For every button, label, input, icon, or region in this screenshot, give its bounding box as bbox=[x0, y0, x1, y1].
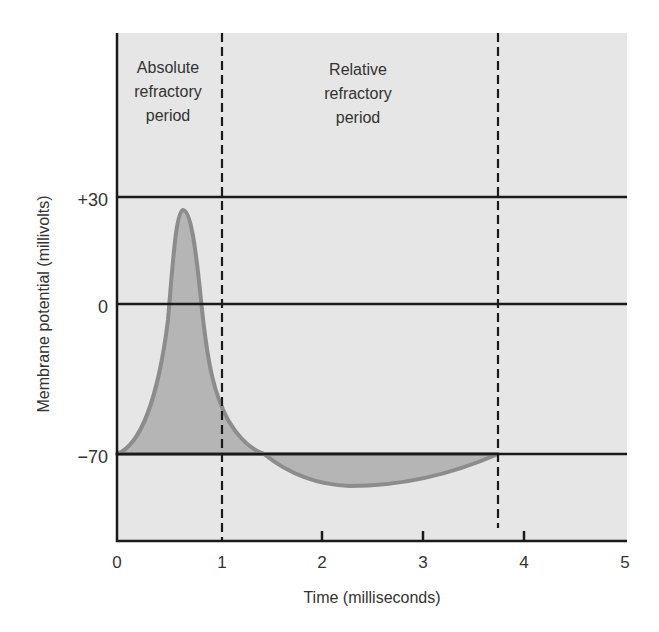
region-absolute-line1: Absolute bbox=[137, 59, 199, 76]
y-axis-title: Membrane potential (millivolts) bbox=[35, 196, 52, 413]
y-tick-label-zero: 0 bbox=[98, 297, 108, 317]
x-axis-title: Time (milliseconds) bbox=[303, 589, 440, 606]
x-tick-label-5: 5 bbox=[620, 553, 629, 572]
action-potential-chart: 0 1 2 3 4 5 +30 0 −70 Time (milliseconds… bbox=[0, 0, 659, 632]
x-tick-label-0: 0 bbox=[112, 553, 121, 572]
y-tick-label-minus70: −70 bbox=[77, 447, 108, 467]
region-relative-line3: period bbox=[336, 109, 380, 126]
x-tick-label-4: 4 bbox=[519, 553, 528, 572]
x-tick-label-2: 2 bbox=[317, 553, 326, 572]
region-absolute-line2: refractory bbox=[134, 83, 202, 100]
region-absolute-line3: period bbox=[146, 107, 190, 124]
x-tick-label-1: 1 bbox=[217, 553, 226, 572]
region-relative-line1: Relative bbox=[329, 61, 387, 78]
y-tick-label-plus30: +30 bbox=[77, 190, 108, 210]
x-tick-label-3: 3 bbox=[418, 553, 427, 572]
region-relative-line2: refractory bbox=[324, 85, 392, 102]
